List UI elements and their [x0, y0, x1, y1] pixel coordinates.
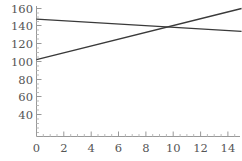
- y-tick-label: 40: [18, 108, 33, 122]
- y-tick-label: 120: [11, 37, 33, 51]
- y-tick-label: 60: [18, 90, 33, 104]
- x-tick-label: 0: [33, 141, 40, 155]
- y-tick-label: 100: [11, 55, 33, 69]
- chart-plot-area: 160 140 120 100 80 60 40 0 2 4 6 8 10 12…: [0, 0, 242, 161]
- x-tick-label: 8: [142, 141, 149, 155]
- y-tick-label: 140: [11, 19, 33, 33]
- y-tick-label: 80: [18, 73, 33, 87]
- x-tick-label: 2: [60, 141, 67, 155]
- y-tick-label: 160: [11, 2, 33, 16]
- x-tick-label: 4: [88, 141, 95, 155]
- x-tick-label: 6: [115, 141, 122, 155]
- x-tick-label: 10: [166, 141, 181, 155]
- line-chart-svg: 160 140 120 100 80 60 40 0 2 4 6 8 10 12…: [0, 0, 242, 161]
- x-tick-label: 14: [221, 141, 236, 155]
- x-tick-label: 12: [193, 141, 208, 155]
